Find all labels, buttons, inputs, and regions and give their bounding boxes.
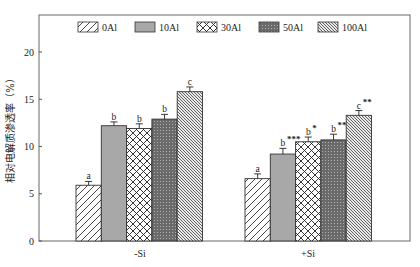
bar-group-plus-si: ab***b*b**c**	[245, 97, 372, 241]
legend-label: 10Al	[159, 22, 179, 33]
legend-swatch	[318, 22, 338, 32]
y-tick-label: 0	[29, 236, 34, 247]
y-tick-label: 10	[24, 141, 34, 152]
legend-item-30al: 30Al	[197, 22, 241, 33]
bar-0al	[245, 179, 270, 241]
bar-50al	[152, 119, 177, 241]
legend-label: 30Al	[221, 22, 241, 33]
y-axis-label: 相对电解质渗透率（%）	[4, 73, 16, 183]
legend-item-100al: 100Al	[318, 22, 367, 33]
bar-0al	[76, 185, 101, 241]
legend-item-10al: 10Al	[135, 22, 179, 33]
legend-item-0al: 0Al	[78, 22, 117, 33]
significance-letter: a	[87, 171, 92, 181]
bar-10al	[101, 126, 126, 241]
x-category-label: +Si	[301, 248, 315, 259]
bars: abbbcab***b*b**c**	[76, 77, 372, 241]
significance-letter: b	[162, 104, 167, 114]
significance-stars: **	[363, 97, 373, 107]
significance-letter: c	[357, 101, 361, 111]
bar-100al	[177, 92, 202, 241]
y-tick-label: 5	[29, 188, 34, 199]
legend-swatch	[259, 22, 279, 32]
legend-swatch	[78, 22, 98, 32]
significance-letter: a	[256, 164, 261, 174]
significance-stars: *	[312, 123, 317, 133]
significance-letter: b	[331, 124, 336, 134]
bar-50al	[321, 140, 346, 241]
y-tick-label: 20	[24, 47, 34, 58]
x-axis-labels: -Si+Si	[134, 248, 315, 259]
significance-letter: b	[112, 112, 117, 122]
bar-30al	[127, 129, 152, 241]
bar-group-minus-si: abbbc	[76, 77, 203, 241]
bar-30al	[296, 142, 321, 241]
x-category-label: -Si	[134, 248, 146, 259]
legend-swatch	[197, 22, 217, 32]
bar-chart: 05101520 0Al10Al30Al50Al100Al abbbcab***…	[0, 0, 420, 267]
y-tick-label: 15	[24, 94, 34, 105]
significance-letter: b	[306, 127, 311, 137]
legend-label: 50Al	[283, 22, 303, 33]
significance-letter: b	[137, 114, 142, 124]
legend: 0Al10Al30Al50Al100Al	[78, 22, 367, 33]
bar-10al	[270, 154, 295, 241]
legend-swatch	[135, 22, 155, 32]
bar-100al	[346, 115, 371, 241]
legend-label: 0Al	[102, 22, 117, 33]
legend-item-50al: 50Al	[259, 22, 303, 33]
significance-stars: **	[338, 120, 348, 130]
significance-letter: b	[281, 138, 286, 148]
legend-label: 100Al	[342, 22, 367, 33]
significance-letter: c	[188, 77, 192, 87]
